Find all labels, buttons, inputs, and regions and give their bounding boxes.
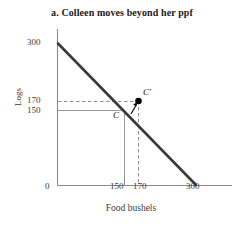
- y-tick-label-170: 170: [27, 95, 41, 105]
- data-point-label-c: C: [113, 110, 119, 120]
- x-tick-label-170: 170: [133, 181, 147, 191]
- y-tick-label-150: 150: [27, 105, 41, 115]
- ppf-chart-figure: a. Colleen moves beyond her ppf 300 170 …: [0, 0, 244, 231]
- x-tick-label-300: 300: [186, 181, 200, 191]
- y-tick-label-300: 300: [27, 37, 41, 47]
- x-tick-label-150: 150: [110, 181, 124, 191]
- data-point-c-prime: [135, 98, 142, 105]
- y-axis-title: Logs: [13, 74, 23, 120]
- x-tick-label-0: 0: [45, 181, 50, 191]
- plot-area: [0, 0, 244, 231]
- ppf-line: [58, 44, 196, 186]
- data-point-label-c-prime: C': [143, 87, 151, 97]
- x-axis-title: Food bushels: [57, 203, 205, 213]
